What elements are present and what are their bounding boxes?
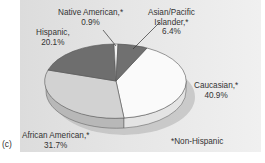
label-hispanic: Hispanic, 20.1% xyxy=(36,28,70,47)
label-caucasian: Caucasian,* 40.9% xyxy=(194,81,238,100)
label-african-american: African American,* 31.7% xyxy=(22,131,89,150)
figure-label: (c) xyxy=(2,139,12,149)
label-hispanic-name: Hispanic, xyxy=(36,28,70,38)
label-asian-name-line2: Islander,* xyxy=(148,18,195,28)
label-hispanic-pct: 20.1% xyxy=(36,38,70,48)
label-asian-pct: 6.4% xyxy=(148,27,195,37)
label-native-american-name: Native American,* xyxy=(58,8,123,18)
label-native-american-pct: 0.9% xyxy=(58,18,123,28)
label-native-american: Native American,* 0.9% xyxy=(58,8,123,27)
label-caucasian-pct: 40.9% xyxy=(194,91,238,101)
pie-top xyxy=(45,44,187,118)
label-african-american-pct: 31.7% xyxy=(22,141,89,151)
label-caucasian-name: Caucasian,* xyxy=(194,81,238,91)
label-african-american-name: African American,* xyxy=(22,131,89,141)
label-asian-pacific: Asian/Pacific Islander,* 6.4% xyxy=(148,8,195,37)
leader-native-american xyxy=(103,30,116,46)
footnote: *Non-Hispanic xyxy=(171,137,223,147)
label-asian-name-line1: Asian/Pacific xyxy=(148,8,195,18)
